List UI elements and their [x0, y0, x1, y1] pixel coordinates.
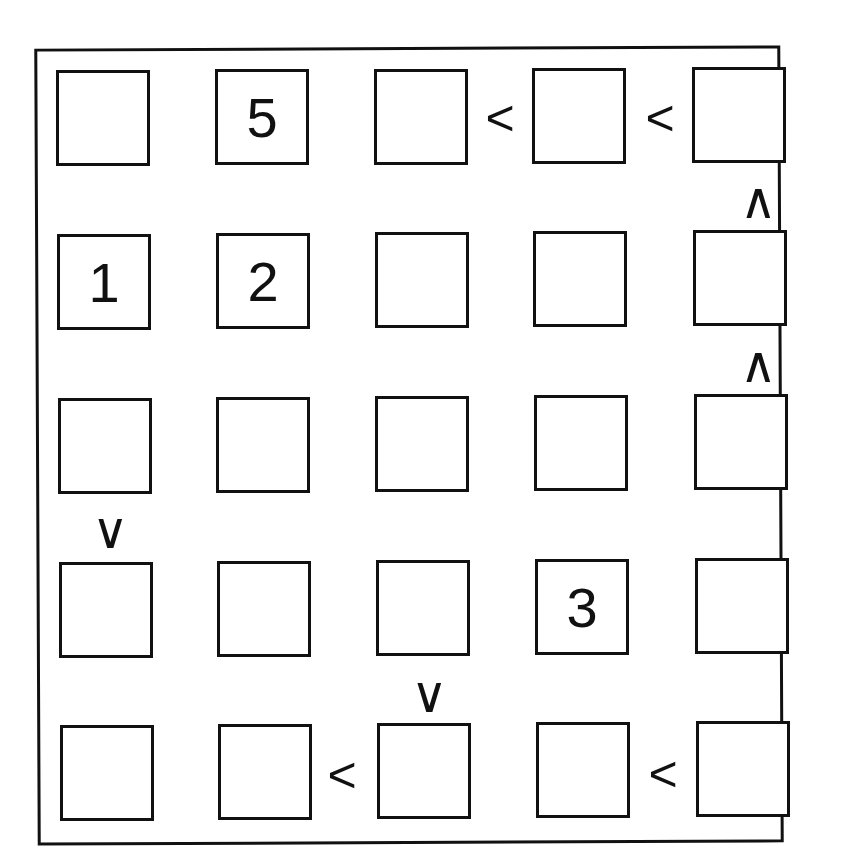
greater-than-up-sign: ∧ — [738, 340, 778, 390]
cell-r2-c2[interactable] — [375, 396, 469, 492]
less-than-sign: < — [643, 749, 683, 799]
cell-r4-c3[interactable] — [536, 722, 630, 818]
cell-r3-c1[interactable] — [217, 561, 311, 657]
cell-r0-c2[interactable] — [374, 69, 468, 165]
cell-r2-c0[interactable] — [58, 398, 152, 494]
cell-r1-c0[interactable]: 1 — [57, 234, 151, 330]
cell-r3-c3[interactable]: 3 — [535, 559, 629, 655]
cell-r4-c4[interactable] — [696, 721, 790, 817]
less-than-sign: < — [322, 750, 362, 800]
cell-r3-c4[interactable] — [695, 558, 789, 654]
cell-r4-c1[interactable] — [218, 724, 312, 820]
cell-r1-c1[interactable]: 2 — [216, 233, 310, 329]
cell-r3-c0[interactable] — [59, 562, 153, 658]
cell-r2-c4[interactable] — [694, 394, 788, 490]
cell-r0-c1[interactable]: 5 — [215, 69, 309, 165]
cell-r1-c3[interactable] — [533, 231, 627, 327]
cell-r3-c2[interactable] — [376, 560, 470, 656]
less-than-sign: < — [480, 93, 520, 143]
greater-than-down-sign: ∨ — [409, 670, 449, 720]
cell-r0-c0[interactable] — [56, 70, 150, 166]
cell-r1-c4[interactable] — [693, 230, 787, 326]
less-than-sign: < — [640, 93, 680, 143]
greater-than-up-sign: ∧ — [738, 176, 778, 226]
greater-than-down-sign: ∨ — [90, 506, 130, 556]
cell-r1-c2[interactable] — [375, 232, 469, 328]
cell-r0-c3[interactable] — [532, 68, 626, 164]
cell-r2-c1[interactable] — [216, 397, 310, 493]
cell-r0-c4[interactable] — [692, 67, 786, 163]
cell-r2-c3[interactable] — [534, 395, 628, 491]
cell-r4-c0[interactable] — [60, 725, 154, 821]
cell-r4-c2[interactable] — [377, 723, 471, 819]
